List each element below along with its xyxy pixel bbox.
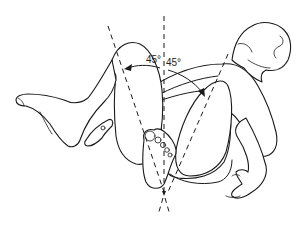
right-angle-label: 45° xyxy=(166,57,181,68)
midline-bottom-marks xyxy=(158,191,170,215)
left-hand xyxy=(85,119,113,146)
left-angle-label: 45° xyxy=(146,54,161,65)
infant-hip-abduction-diagram: 45° 45° xyxy=(0,0,305,225)
